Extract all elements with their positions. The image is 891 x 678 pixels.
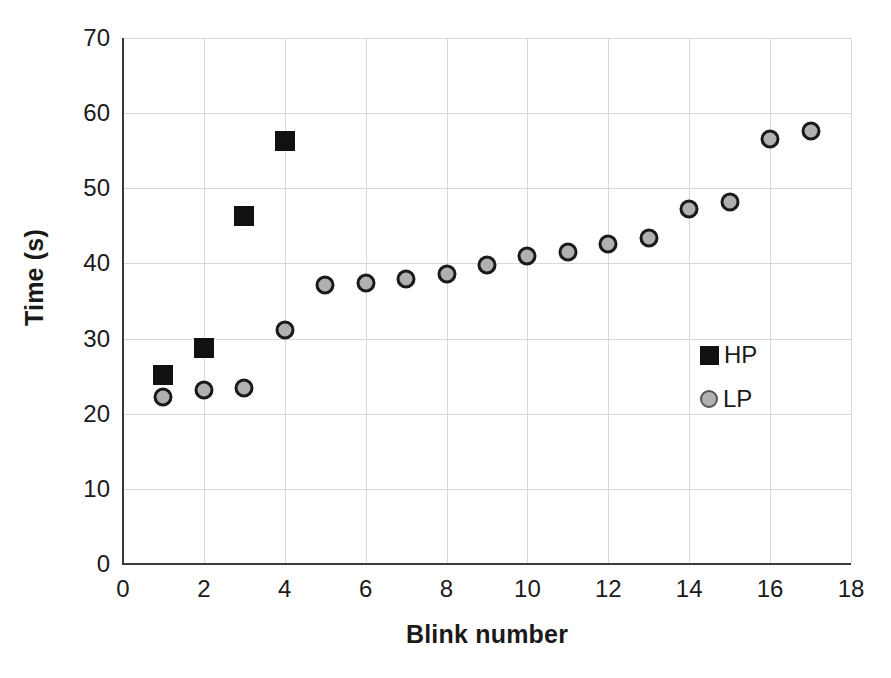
x-tick-label: 12 — [595, 575, 622, 603]
data-point-lp — [316, 276, 335, 295]
data-point-hp — [194, 338, 214, 358]
y-tick-label: 60 — [83, 99, 110, 127]
y-axis-line — [122, 38, 124, 564]
x-axis-title: Blink number — [123, 620, 851, 649]
gridline-horizontal — [123, 113, 851, 114]
x-tick-label: 0 — [116, 575, 129, 603]
y-tick-label: 10 — [83, 475, 110, 503]
y-tick-label: 0 — [97, 550, 110, 578]
data-point-lp — [194, 380, 213, 399]
data-point-lp — [680, 200, 699, 219]
gridline-vertical — [527, 38, 528, 564]
plot-area: 010203040506070 024681012141618 — [123, 38, 851, 564]
gridline-vertical — [608, 38, 609, 564]
data-point-lp — [599, 234, 618, 253]
legend-label-lp: LP — [723, 385, 752, 413]
data-point-lp — [801, 122, 820, 141]
data-point-lp — [478, 255, 497, 274]
x-axis-line — [122, 563, 851, 565]
data-point-lp — [761, 130, 780, 149]
data-point-lp — [356, 273, 375, 292]
x-tick-label: 18 — [838, 575, 865, 603]
gridline-vertical — [770, 38, 771, 564]
gridline-horizontal — [123, 38, 851, 39]
gridline-vertical — [447, 38, 448, 564]
x-tick-label: 4 — [278, 575, 291, 603]
x-tick-label: 8 — [440, 575, 453, 603]
legend-item-hp: HP — [700, 333, 820, 377]
y-tick-label: 50 — [83, 174, 110, 202]
x-tick-label: 16 — [757, 575, 784, 603]
y-axis-title: Time (s) — [20, 178, 49, 378]
square-marker-icon — [700, 346, 719, 365]
scatter-chart-figure: Time (s) Blink number 010203040506070 02… — [0, 0, 891, 678]
gridline-horizontal — [123, 489, 851, 490]
x-tick-label: 14 — [676, 575, 703, 603]
x-tick-label: 6 — [359, 575, 372, 603]
data-point-lp — [437, 264, 456, 283]
legend-label-hp: HP — [724, 341, 757, 369]
gridline-vertical — [851, 38, 852, 564]
chart-legend: HP LP — [700, 333, 820, 421]
data-point-lp — [275, 320, 294, 339]
y-tick-label: 30 — [83, 325, 110, 353]
y-tick-label: 20 — [83, 400, 110, 428]
data-point-lp — [639, 228, 658, 247]
gridline-vertical — [689, 38, 690, 564]
data-point-lp — [518, 246, 537, 265]
legend-item-lp: LP — [700, 377, 820, 421]
x-tick-label: 2 — [197, 575, 210, 603]
data-point-hp — [234, 206, 254, 226]
data-point-hp — [275, 131, 295, 151]
gridline-vertical — [204, 38, 205, 564]
y-tick-label: 70 — [83, 24, 110, 52]
data-point-lp — [235, 379, 254, 398]
gridline-horizontal — [123, 188, 851, 189]
gridline-vertical — [366, 38, 367, 564]
x-tick-label: 10 — [514, 575, 541, 603]
data-point-hp — [153, 365, 173, 385]
y-tick-label: 40 — [83, 249, 110, 277]
data-point-lp — [154, 388, 173, 407]
circle-marker-icon — [700, 390, 718, 408]
data-point-lp — [720, 192, 739, 211]
data-point-lp — [558, 243, 577, 262]
gridline-vertical — [285, 38, 286, 564]
data-point-lp — [397, 270, 416, 289]
